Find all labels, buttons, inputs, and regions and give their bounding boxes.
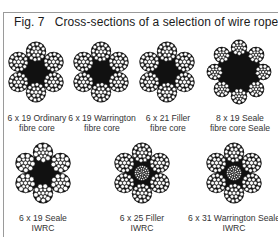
wire [219,181,223,185]
wire [88,65,92,69]
wire [152,80,156,84]
wire [109,83,113,87]
wire [187,54,191,58]
wire [30,162,35,167]
wire [134,146,138,150]
wire [120,67,124,71]
wire [43,184,48,189]
wire [93,86,97,90]
wire [169,90,173,94]
wire [238,196,242,200]
wire [121,178,125,182]
wire [215,65,219,69]
wire [104,44,108,48]
wire [232,43,236,47]
wire [152,60,156,64]
wire [179,80,183,84]
wire [41,47,45,51]
wire [129,166,133,170]
wire [29,157,34,162]
wire [144,80,148,84]
wire [126,168,130,172]
wire [185,63,189,67]
wire [237,171,239,173]
wire [143,178,145,180]
wire [231,159,235,163]
wire [165,162,169,166]
wire [53,52,57,56]
wire [12,66,16,70]
wire [21,54,25,58]
wire [23,65,27,69]
wire [150,164,154,168]
wire [157,89,161,93]
wire [219,155,223,159]
wire [16,88,20,92]
wire [252,164,256,168]
wire [233,143,237,147]
wire [115,180,119,184]
wire [16,68,20,72]
wire [239,188,243,192]
wire [184,73,188,77]
wire [253,188,257,192]
wire [158,53,162,57]
wire [190,61,194,65]
wire [11,76,15,80]
wire [213,178,217,182]
wire [38,184,43,189]
wire [86,80,90,84]
wire [220,93,224,97]
wire [234,195,238,199]
wire [151,156,155,160]
wire [259,65,263,69]
wire [141,143,145,147]
wire [48,80,52,84]
wire [51,68,55,72]
wire [116,184,120,188]
wire [243,177,247,181]
wire [157,189,161,193]
wire [116,68,120,72]
wire [229,144,233,148]
wire [215,50,219,54]
wire [139,166,141,168]
wire [115,57,119,61]
wire [17,177,22,182]
wire [211,65,215,69]
wire [221,186,225,190]
wire [78,80,82,84]
wire [233,184,237,188]
wire [28,86,32,90]
wire [116,164,120,168]
wire [164,166,168,170]
wire [30,182,35,187]
wire [217,58,221,62]
wire [221,166,225,170]
wire [124,81,128,85]
wire [178,86,182,90]
wire [48,151,53,156]
wire [32,87,36,91]
wire [251,174,255,178]
wire [222,158,226,162]
wire [160,185,164,189]
wire [84,84,88,88]
wire [118,73,122,77]
wire [145,185,149,189]
wire [226,146,230,150]
wire [139,159,143,163]
rope-core: fibre core Seale [202,123,278,133]
wire [125,185,129,189]
wire [16,182,21,187]
wire [43,144,48,149]
wire [237,100,241,104]
wire [239,169,241,171]
wire [76,55,80,59]
wire [95,90,99,94]
wire [209,75,213,79]
wire [251,58,255,62]
rope-core: fibre core [133,123,203,133]
wire [96,43,100,47]
wire [118,187,122,191]
